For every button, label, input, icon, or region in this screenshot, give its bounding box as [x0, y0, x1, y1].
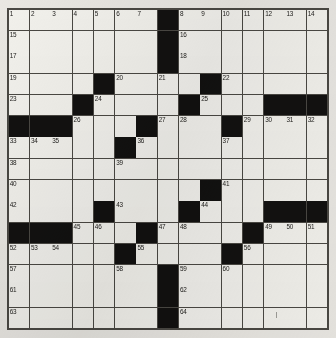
grid-cell[interactable]: [222, 223, 243, 244]
grid-cell[interactable]: 37: [222, 137, 243, 158]
grid-cell[interactable]: [264, 308, 285, 329]
grid-cell[interactable]: [307, 74, 328, 95]
grid-cell[interactable]: [158, 159, 179, 180]
grid-cell[interactable]: [73, 265, 94, 286]
grid-cell[interactable]: [94, 180, 115, 201]
grid-cell[interactable]: [136, 159, 157, 180]
grid-cell[interactable]: [73, 286, 94, 307]
grid-cell[interactable]: 35: [51, 137, 72, 158]
grid-cell[interactable]: [243, 201, 264, 222]
grid-cell[interactable]: 54: [51, 244, 72, 265]
grid-cell[interactable]: 5: [94, 10, 115, 31]
grid-cell[interactable]: 32: [307, 116, 328, 137]
grid-cell[interactable]: [200, 265, 221, 286]
grid-cell[interactable]: 19: [9, 74, 30, 95]
grid-cell[interactable]: [285, 137, 306, 158]
grid-cell[interactable]: [179, 137, 200, 158]
grid-cell[interactable]: [222, 31, 243, 52]
grid-cell[interactable]: [307, 286, 328, 307]
grid-cell[interactable]: [115, 308, 136, 329]
grid-cell[interactable]: [158, 201, 179, 222]
grid-cell[interactable]: [30, 180, 51, 201]
grid-cell[interactable]: [94, 159, 115, 180]
grid-cell[interactable]: 55: [136, 244, 157, 265]
grid-cell[interactable]: 28: [179, 116, 200, 137]
grid-cell[interactable]: 64: [179, 308, 200, 329]
grid-cell[interactable]: [73, 52, 94, 73]
grid-cell[interactable]: 61: [9, 286, 30, 307]
grid-cell[interactable]: [307, 180, 328, 201]
grid-cell[interactable]: [73, 137, 94, 158]
grid-cell[interactable]: [200, 308, 221, 329]
grid-cell[interactable]: 46: [94, 223, 115, 244]
grid-cell[interactable]: [243, 180, 264, 201]
grid-cell[interactable]: 40: [9, 180, 30, 201]
grid-cell[interactable]: [179, 74, 200, 95]
grid-cell[interactable]: 21: [158, 74, 179, 95]
grid-cell[interactable]: [30, 74, 51, 95]
grid-cell[interactable]: [264, 74, 285, 95]
grid-cell[interactable]: 10: [222, 10, 243, 31]
grid-cell[interactable]: 47: [158, 223, 179, 244]
grid-cell[interactable]: [243, 74, 264, 95]
grid-cell[interactable]: [307, 308, 328, 329]
grid-cell[interactable]: 7: [136, 10, 157, 31]
grid-cell[interactable]: 2: [30, 10, 51, 31]
grid-cell[interactable]: 45: [73, 223, 94, 244]
grid-cell[interactable]: [136, 180, 157, 201]
grid-cell[interactable]: [51, 265, 72, 286]
grid-cell[interactable]: [94, 31, 115, 52]
grid-cell[interactable]: [115, 31, 136, 52]
grid-cell[interactable]: [73, 201, 94, 222]
grid-cell[interactable]: [264, 31, 285, 52]
grid-cell[interactable]: [307, 52, 328, 73]
grid-cell[interactable]: [136, 31, 157, 52]
grid-cell[interactable]: [264, 159, 285, 180]
grid-cell[interactable]: 11: [243, 10, 264, 31]
grid-cell[interactable]: 4: [73, 10, 94, 31]
grid-cell[interactable]: [94, 265, 115, 286]
grid-cell[interactable]: [94, 308, 115, 329]
grid-cell[interactable]: [115, 52, 136, 73]
grid-cell[interactable]: [73, 244, 94, 265]
grid-cell[interactable]: [243, 31, 264, 52]
grid-cell[interactable]: 49: [264, 223, 285, 244]
grid-cell[interactable]: [94, 137, 115, 158]
grid-cell[interactable]: [73, 308, 94, 329]
grid-cell[interactable]: [285, 308, 306, 329]
grid-cell[interactable]: 33: [9, 137, 30, 158]
grid-cell[interactable]: [136, 286, 157, 307]
grid-cell[interactable]: [264, 265, 285, 286]
grid-cell[interactable]: [200, 286, 221, 307]
grid-cell[interactable]: [243, 286, 264, 307]
grid-cell[interactable]: [115, 116, 136, 137]
grid-cell[interactable]: 20: [115, 74, 136, 95]
grid-cell[interactable]: [222, 52, 243, 73]
grid-cell[interactable]: [136, 52, 157, 73]
grid-cell[interactable]: [243, 52, 264, 73]
grid-cell[interactable]: [222, 201, 243, 222]
grid-cell[interactable]: [200, 244, 221, 265]
grid-cell[interactable]: 24: [94, 95, 115, 116]
grid-cell[interactable]: [30, 31, 51, 52]
grid-cell[interactable]: [222, 308, 243, 329]
grid-cell[interactable]: 26: [73, 116, 94, 137]
grid-cell[interactable]: [285, 31, 306, 52]
grid-cell[interactable]: [73, 74, 94, 95]
grid-cell[interactable]: [222, 95, 243, 116]
grid-cell[interactable]: [51, 95, 72, 116]
grid-cell[interactable]: 62: [179, 286, 200, 307]
grid-cell[interactable]: [179, 180, 200, 201]
grid-cell[interactable]: 30: [264, 116, 285, 137]
grid-cell[interactable]: [73, 31, 94, 52]
grid-cell[interactable]: 42: [9, 201, 30, 222]
grid-cell[interactable]: 12: [264, 10, 285, 31]
grid-cell[interactable]: 63: [9, 308, 30, 329]
grid-cell[interactable]: [94, 244, 115, 265]
grid-cell[interactable]: [30, 52, 51, 73]
grid-cell[interactable]: [264, 244, 285, 265]
grid-cell[interactable]: 18: [179, 52, 200, 73]
grid-cell[interactable]: 59: [179, 265, 200, 286]
grid-cell[interactable]: 25: [200, 95, 221, 116]
grid-cell[interactable]: [51, 74, 72, 95]
